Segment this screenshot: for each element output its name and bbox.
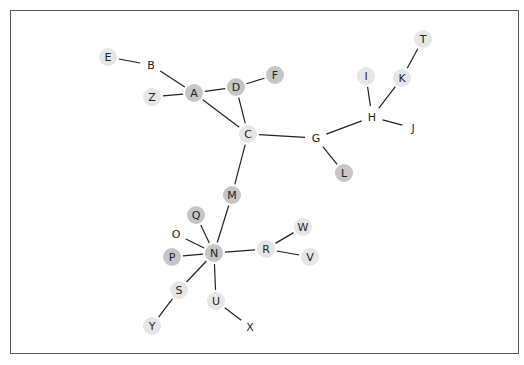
node-label: P bbox=[169, 251, 176, 264]
node-n: N bbox=[205, 244, 223, 262]
node-k: K bbox=[393, 69, 411, 87]
node-label: A bbox=[190, 87, 198, 100]
node-a: A bbox=[185, 84, 203, 102]
node-z: Z bbox=[143, 88, 161, 106]
edge-o-n bbox=[186, 239, 204, 248]
node-c: C bbox=[239, 125, 257, 143]
node-label: E bbox=[105, 51, 112, 64]
edge-n-r bbox=[225, 250, 255, 252]
node-f: F bbox=[266, 66, 284, 84]
edge-a-d bbox=[205, 89, 225, 92]
edge-s-y bbox=[159, 299, 173, 317]
node-label: T bbox=[419, 33, 427, 46]
edge-q-n bbox=[201, 225, 210, 243]
node-l: L bbox=[335, 164, 353, 182]
edge-d-f bbox=[247, 78, 265, 84]
nodes-layer: EBZADFCGLHIKTJMQOPNRWVSUYX bbox=[99, 30, 432, 336]
node-label: Y bbox=[148, 320, 156, 333]
node-h: H bbox=[363, 108, 381, 126]
edge-c-g bbox=[259, 135, 305, 138]
node-label: N bbox=[210, 247, 218, 260]
edge-g-h bbox=[326, 121, 361, 134]
edge-g-l bbox=[323, 147, 337, 165]
node-d: D bbox=[227, 78, 245, 96]
edge-c-m bbox=[235, 145, 245, 185]
node-i: I bbox=[357, 67, 375, 85]
node-label: V bbox=[306, 251, 314, 264]
edge-u-x bbox=[225, 308, 242, 321]
node-p: P bbox=[163, 248, 181, 266]
node-label: H bbox=[368, 111, 376, 124]
node-label: S bbox=[176, 284, 183, 297]
node-label: M bbox=[227, 189, 237, 202]
edge-h-i bbox=[368, 87, 371, 106]
node-m: M bbox=[223, 186, 241, 204]
node-label: U bbox=[212, 295, 220, 308]
node-u: U bbox=[207, 292, 225, 310]
node-label: Z bbox=[148, 91, 156, 104]
edges-layer bbox=[119, 49, 418, 321]
edge-a-c bbox=[203, 100, 239, 128]
node-s: S bbox=[170, 281, 188, 299]
edge-d-c bbox=[239, 98, 246, 124]
node-e: E bbox=[99, 48, 117, 66]
node-label: C bbox=[244, 128, 252, 141]
node-o: O bbox=[167, 225, 185, 243]
node-label: B bbox=[147, 59, 155, 72]
edge-h-j bbox=[383, 120, 403, 125]
node-label: X bbox=[246, 321, 254, 334]
node-r: R bbox=[257, 240, 275, 258]
node-g: G bbox=[307, 129, 325, 147]
edge-z-a bbox=[163, 94, 183, 96]
node-label: W bbox=[298, 221, 309, 234]
node-label: F bbox=[272, 69, 278, 82]
edge-n-u bbox=[214, 264, 215, 290]
node-j: J bbox=[404, 119, 422, 137]
edge-r-v bbox=[277, 251, 299, 255]
edge-k-t bbox=[407, 49, 418, 69]
node-y: Y bbox=[143, 317, 161, 335]
node-label: Q bbox=[192, 209, 201, 222]
node-label: K bbox=[398, 72, 406, 85]
node-x: X bbox=[241, 318, 259, 336]
node-label: L bbox=[341, 167, 348, 180]
network-graph: EBZADFCGLHIKTJMQOPNRWVSUYX bbox=[0, 0, 524, 365]
node-label: O bbox=[172, 228, 181, 241]
node-label: J bbox=[410, 122, 414, 135]
node-w: W bbox=[294, 218, 312, 236]
node-label: R bbox=[262, 243, 270, 256]
edge-m-n bbox=[217, 206, 228, 243]
node-b: B bbox=[142, 56, 160, 74]
edge-n-s bbox=[187, 261, 207, 282]
edge-b-a bbox=[160, 71, 185, 87]
node-label: D bbox=[232, 81, 240, 94]
node-t: T bbox=[414, 30, 432, 48]
node-label: I bbox=[364, 70, 367, 83]
edge-h-k bbox=[379, 87, 396, 109]
edge-r-w bbox=[275, 233, 293, 244]
node-q: Q bbox=[187, 206, 205, 224]
edge-e-b bbox=[119, 59, 140, 63]
node-v: V bbox=[301, 248, 319, 266]
node-label: G bbox=[312, 132, 321, 145]
edge-p-n bbox=[183, 254, 203, 256]
